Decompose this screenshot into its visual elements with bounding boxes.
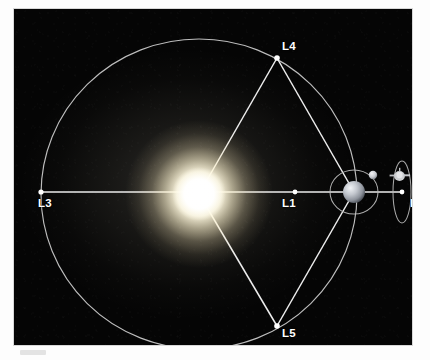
page-artifact-mark (20, 350, 46, 355)
lagrange-label-l1: L1 (282, 197, 296, 209)
lagrange-label-l2: L2 (410, 197, 412, 209)
lagrange-label-l3: L3 (38, 197, 52, 209)
lagrange-label-l4: L4 (282, 40, 296, 52)
lagrange-diagram-panel: L3 L1 L2 L4 L5 (14, 9, 412, 345)
earth-body (343, 181, 365, 203)
l4-to-earth-line (277, 58, 354, 192)
lagrange-scene-svg (14, 9, 412, 345)
lagrange-marker-l4[interactable] (274, 55, 280, 61)
lagrange-marker-l1[interactable] (293, 190, 298, 195)
lagrange-marker-l2[interactable] (400, 190, 405, 195)
figure-page: L3 L1 L2 L4 L5 (0, 0, 430, 360)
spacecraft-at-l2 (390, 168, 411, 181)
lagrange-marker-l5[interactable] (274, 323, 280, 329)
lagrange-marker-l3[interactable] (38, 189, 43, 194)
lagrange-label-l5: L5 (282, 327, 296, 339)
sun-core (172, 167, 226, 221)
moon-body (369, 171, 377, 179)
